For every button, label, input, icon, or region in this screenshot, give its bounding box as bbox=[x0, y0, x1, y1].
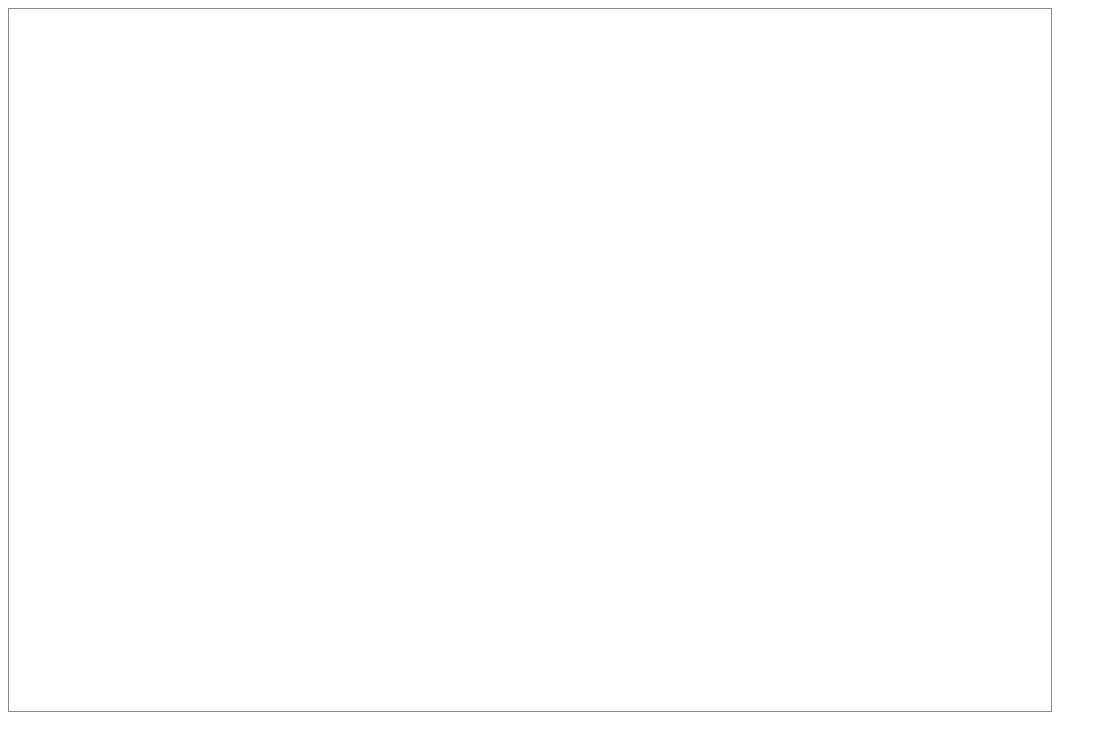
chart-figure: 0%10%20%30%40%50%60%70%80%90%100%0%10%20… bbox=[0, 0, 1103, 744]
figure-border bbox=[8, 8, 1052, 712]
